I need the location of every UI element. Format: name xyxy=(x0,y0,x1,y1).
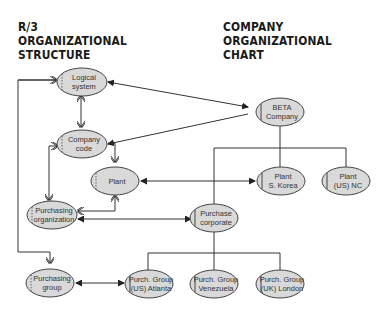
node-label: Purch. Group xyxy=(260,275,305,284)
node-plant-us-nc[interactable]: Plant (US) NC xyxy=(322,167,370,195)
connector-company-plant xyxy=(108,143,115,162)
node-purchasing-organization[interactable]: Purchasing organization xyxy=(27,201,77,229)
node-plant[interactable]: Plant xyxy=(91,167,139,195)
node-label: S. Korea xyxy=(268,181,298,190)
node-label: group xyxy=(42,283,61,292)
connector-company-beta xyxy=(108,114,248,144)
node-label: Plant xyxy=(339,172,357,181)
node-label: (US) Atlanta xyxy=(131,284,172,293)
node-label: Company xyxy=(68,135,100,144)
node-label: Venezuela xyxy=(198,284,234,293)
node-label: Purchase xyxy=(200,209,232,218)
node-label: Purch. Group xyxy=(194,275,239,284)
node-label: Purchasing xyxy=(35,206,73,215)
node-label: system xyxy=(72,82,96,91)
node-label: corporate xyxy=(200,218,232,227)
node-label: Purchasing xyxy=(33,274,71,283)
node-label: (UK) London xyxy=(261,284,304,293)
connector-logical-beta xyxy=(108,82,248,107)
node-purch-group-atlanta[interactable]: Purch. Group (US) Atlanta xyxy=(125,270,173,298)
node-purchasing-group[interactable]: Purchasing group xyxy=(26,269,74,297)
node-purch-group-venezuela[interactable]: Purch. Group Venezuela xyxy=(190,270,238,298)
node-label: Plant xyxy=(108,177,126,186)
connector-logical-purchgroup xyxy=(18,80,59,263)
org-diagram: Logical system Company code Plant Purcha… xyxy=(0,0,385,315)
node-purchase-corporate[interactable]: Purchase corporate xyxy=(190,204,238,232)
node-label: BETA xyxy=(272,103,291,112)
node-company-code[interactable]: Company code xyxy=(57,130,107,158)
node-purch-group-london[interactable]: Purch. Group (UK) London xyxy=(256,270,304,298)
node-label: code xyxy=(76,144,92,153)
node-logical-system[interactable]: Logical system xyxy=(57,68,107,96)
node-beta-company[interactable]: BETA Company xyxy=(256,98,304,126)
node-label: organization xyxy=(34,215,75,224)
node-label: Company xyxy=(266,112,298,121)
connector-purchorg-plant xyxy=(78,196,115,211)
node-plant-s-korea[interactable]: Plant S. Korea xyxy=(257,167,305,195)
node-label: Logical xyxy=(72,73,96,82)
node-label: (US) NC xyxy=(334,181,363,190)
connector-company-purchorg xyxy=(49,146,57,200)
node-label: Purch. Group xyxy=(129,275,174,284)
node-label: Plant xyxy=(274,172,292,181)
